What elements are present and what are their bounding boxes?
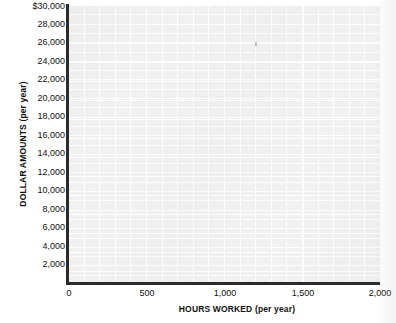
plot-area <box>69 6 380 283</box>
x-axis-tick-label: 1,500 <box>273 288 333 299</box>
x-axis-tick-label: 0 <box>39 288 99 299</box>
y-axis-tick-label: 12,000 <box>0 168 65 177</box>
y-axis-tick-label: 4,000 <box>0 242 65 251</box>
y-axis-line <box>66 4 69 285</box>
plot-paper-shading <box>69 6 380 283</box>
x-axis-title: HOURS WORKED (per year) <box>0 304 396 314</box>
y-axis-tick-label: 18,000 <box>0 112 65 121</box>
y-axis-tick-label: 14,000 <box>0 149 65 158</box>
x-axis-tick-label: 500 <box>117 288 177 299</box>
x-axis-tick-label: 2,000 <box>350 288 396 299</box>
y-axis-tick-label: 26,000 <box>0 38 65 47</box>
y-axis-tick-label: 16,000 <box>0 131 65 140</box>
y-axis-tick-label: 20,000 <box>0 94 65 103</box>
y-axis-tick-label: 28,000 <box>0 20 65 29</box>
x-axis-line <box>66 282 380 285</box>
y-axis-tick-label: $30,000 <box>0 2 65 11</box>
x-axis-tick-label: 1,000 <box>195 288 255 299</box>
x-axis-tick-labels: 05001,0001,5002,000 <box>0 288 396 302</box>
y-axis-tick-label: 2,000 <box>0 260 65 269</box>
y-axis-tick-labels: $30,00028,00026,00024,00022,00020,00018,… <box>0 0 65 290</box>
y-axis-tick-label: 24,000 <box>0 57 65 66</box>
scan-speck-artifact <box>255 42 257 46</box>
chart-figure: DOLLAR AMOUNTS (per year) $30,00028,0002… <box>0 0 396 323</box>
y-axis-tick-label: 8,000 <box>0 205 65 214</box>
y-axis-tick-label: 22,000 <box>0 75 65 84</box>
y-axis-tick-label: 6,000 <box>0 223 65 232</box>
y-axis-tick-label: 10,000 <box>0 186 65 195</box>
